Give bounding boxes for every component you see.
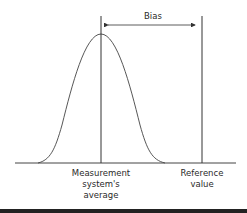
- mean-label: Measurement system's average: [61, 168, 141, 201]
- bias-label: Bias: [144, 11, 162, 21]
- bottom-border: [0, 209, 247, 213]
- reference-label: Reference value: [172, 168, 232, 190]
